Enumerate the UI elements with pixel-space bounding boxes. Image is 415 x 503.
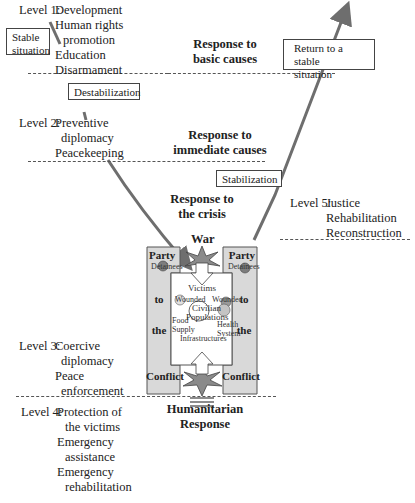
infrastructures-label: Infrastructures (180, 334, 227, 343)
level3-items: Coercive diplomacy Peace enforcement (55, 339, 123, 399)
stabilization-box: Stabilization (216, 170, 282, 187)
level4-items: Protection of the victims Emergency assi… (57, 405, 132, 495)
food-supply-label: Food Supply (172, 316, 195, 334)
destabilization-box: Destabilization (68, 83, 140, 100)
left-to-label: to (150, 293, 168, 305)
left-conflict-label: Conflict (146, 370, 181, 382)
left-detainees-label: Detainees (151, 262, 183, 271)
return-stable-box: Return to a stable situation (283, 39, 375, 70)
response-crisis: Response to the crisis (162, 192, 242, 222)
left-the-label: the (149, 324, 169, 336)
humanitarian-response: Humanitarian Response (165, 402, 245, 432)
response-basic-causes: Response to basic causes (175, 37, 275, 67)
stable-situation-box: Stable situation (6, 28, 50, 55)
level2-items: Preventive diplomacy Peacekeeping (55, 116, 124, 161)
response-immediate-causes: Response to immediate causes (160, 128, 280, 158)
level1-items: Development Human rights promotion Educa… (55, 3, 123, 78)
separator-level2 (28, 161, 265, 162)
level5-items: Justice Rehabilitation Reconstruction (326, 196, 402, 241)
victims-label: Victims (188, 284, 216, 293)
right-detainees-label: Detainees (228, 262, 260, 271)
war-label: War (191, 232, 215, 247)
right-conflict-label: Conflict (222, 370, 257, 382)
left-party-label: Party (149, 249, 175, 261)
right-party-label: Party (227, 249, 255, 261)
